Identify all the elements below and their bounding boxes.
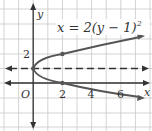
vertex-point: [31, 66, 35, 70]
point-2-2: [60, 52, 64, 56]
y-tick-2: 2: [23, 48, 30, 61]
y-axis-label: y: [36, 8, 44, 21]
x-tick-6: 6: [117, 88, 124, 101]
parabola-graph: x = 2(y − 1)2 y x O 2 2 4 6: [0, 0, 152, 131]
arrow-up-icon: [30, 3, 36, 10]
x-axis-label: x: [144, 86, 151, 99]
arrow-right-icon: [142, 66, 149, 72]
arrow-left-icon: [5, 66, 12, 72]
origin-label: O: [21, 88, 30, 101]
point-2-0: [60, 81, 64, 85]
arrow-left-icon: [4, 80, 11, 86]
arrow-down-icon: [30, 122, 36, 129]
equation-label: x = 2(y − 1)2: [57, 19, 142, 35]
x-tick-2: 2: [59, 88, 66, 101]
x-tick-4: 4: [88, 88, 95, 101]
